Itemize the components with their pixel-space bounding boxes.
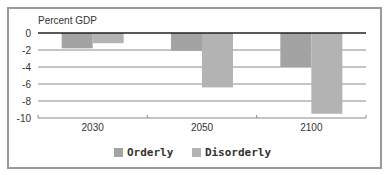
x-tick-label: 2050: [191, 122, 214, 133]
bar-disorderly-2050: [202, 33, 233, 87]
legend: Orderly Disorderly: [0, 146, 385, 160]
legend-item-orderly: Orderly: [114, 146, 173, 159]
bar-disorderly-2100: [311, 33, 342, 114]
y-tick-label: -8: [22, 96, 31, 107]
x-axis: 203020502100: [38, 115, 366, 133]
legend-label-disorderly: Disorderly: [205, 146, 271, 159]
legend-label-orderly: Orderly: [127, 146, 173, 159]
x-tick-label: 2030: [82, 122, 105, 133]
y-tick-label: -4: [22, 62, 31, 73]
y-tick-label: -10: [17, 113, 32, 124]
bar-disorderly-2030: [93, 33, 124, 43]
y-tick-labels: 0-2-4-6-8-10: [17, 28, 32, 124]
legend-item-disorderly: Disorderly: [192, 146, 271, 159]
legend-swatch-orderly: [114, 148, 123, 157]
legend-swatch-disorderly: [192, 148, 201, 157]
bars: [62, 33, 343, 114]
bar-orderly-2050: [171, 33, 202, 51]
y-tick-label: -6: [22, 79, 31, 90]
y-tick-label: -2: [22, 45, 31, 56]
bar-orderly-2100: [280, 33, 311, 67]
x-tick-label: 2100: [300, 122, 323, 133]
y-tick-label: 0: [25, 28, 31, 39]
bar-orderly-2030: [62, 33, 93, 48]
